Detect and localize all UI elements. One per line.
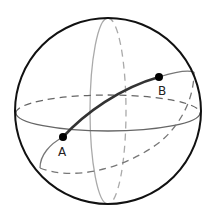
point-a-label: A xyxy=(58,145,67,159)
point-a-marker xyxy=(59,133,67,141)
point-b-marker xyxy=(155,73,163,81)
geodesic-arc-a-b xyxy=(63,77,159,137)
equator-back-half xyxy=(16,95,200,113)
point-b-label: B xyxy=(158,84,166,98)
sphere-outline xyxy=(15,18,201,204)
equator-front-half xyxy=(16,113,200,131)
sphere-diagram: A B xyxy=(0,0,216,219)
meridian-back-half xyxy=(108,18,126,204)
